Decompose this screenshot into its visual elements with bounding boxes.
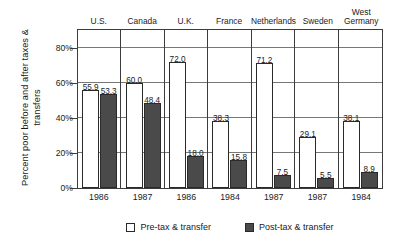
y-axis-tick-mark (70, 153, 77, 154)
bar-value-label: 38.3 (213, 114, 229, 123)
y-axis-tick-mark (70, 118, 77, 119)
poverty-bar-chart: Percent poor before and after taxes & tr… (0, 0, 407, 251)
y-axis-tick-mark (70, 188, 77, 189)
bar-pre-tax: 55.9 (82, 90, 99, 188)
bar-value-label: 71.2 (256, 56, 272, 65)
year-label: 1987 (252, 192, 296, 206)
bar-post-tax: 8.9 (361, 172, 378, 188)
country-label: Sweden (296, 2, 339, 29)
bar-value-label: 55.9 (83, 83, 99, 92)
bar-value-label: 48.4 (144, 96, 160, 105)
bar-value-label: 15.8 (231, 153, 247, 162)
legend-swatch-post (245, 223, 254, 232)
bar-value-label: 60.0 (126, 76, 142, 85)
country-header-row: U.S.CanadaU.K.FranceNetherlandsSwedenWes… (77, 2, 383, 29)
bar-group: 38.18.9 (339, 30, 382, 188)
bar-post-tax: 15.8 (230, 160, 247, 188)
country-label: U.S. (77, 2, 120, 29)
bar-value-label: 18.0 (188, 149, 204, 158)
bar-groups: 55.953.360.048.472.018.038.315.871.27.52… (78, 30, 382, 188)
bar-group: 29.15.5 (295, 30, 338, 188)
year-label: 1987 (121, 192, 165, 206)
legend-label: Pre-tax & transfer (140, 222, 211, 232)
country-label: Netherlands (251, 2, 296, 29)
bar-pre-tax: 38.1 (343, 121, 360, 188)
bar-value-label: 72.0 (170, 55, 186, 64)
bar-group: 71.27.5 (252, 30, 295, 188)
y-axis-tick-label: 80% (33, 43, 73, 53)
year-label: 1986 (77, 192, 121, 206)
bar-post-tax: 48.4 (144, 103, 161, 188)
year-label: 1987 (296, 192, 340, 206)
bar-pre-tax: 29.1 (299, 137, 316, 188)
y-axis-tick-label: 60% (33, 78, 73, 88)
bar-post-tax: 5.5 (317, 178, 334, 188)
country-label: Canada (120, 2, 163, 29)
bar-pre-tax: 60.0 (126, 83, 143, 188)
bar-post-tax: 7.5 (274, 175, 291, 188)
bar-pre-tax: 38.3 (212, 121, 229, 188)
bar-group: 38.315.8 (208, 30, 251, 188)
year-label: 1984 (339, 192, 383, 206)
legend-item: Pre-tax & transfer (126, 222, 211, 232)
country-label: West Germany (340, 2, 383, 29)
bar-value-label: 5.5 (320, 171, 331, 180)
country-label: U.K. (164, 2, 207, 29)
legend-item: Post-tax & transfer (245, 222, 334, 232)
bar-pre-tax: 72.0 (169, 62, 186, 188)
bar-value-label: 29.1 (300, 130, 316, 139)
bar-post-tax: 18.0 (187, 156, 204, 188)
bar-post-tax: 53.3 (100, 94, 117, 188)
x-axis-year-row: 1986198719861984198719871984 (77, 192, 383, 206)
bar-value-label: 53.3 (101, 87, 117, 96)
year-label: 1984 (208, 192, 252, 206)
year-label: 1986 (164, 192, 208, 206)
y-axis-tick-label: 0% (33, 183, 73, 193)
y-axis-tick-mark (70, 48, 77, 49)
y-axis-tick-label: 20% (33, 148, 73, 158)
chart-legend: Pre-tax & transferPost-tax & transfer (77, 222, 383, 232)
y-axis-tick-label: 40% (33, 113, 73, 123)
country-label: France (207, 2, 250, 29)
bar-value-label: 38.1 (343, 114, 359, 123)
y-axis-tick-mark (70, 83, 77, 84)
bar-group: 60.048.4 (121, 30, 164, 188)
legend-label: Post-tax & transfer (259, 222, 334, 232)
bar-pre-tax: 71.2 (256, 63, 273, 188)
bar-value-label: 8.9 (364, 165, 375, 174)
bar-group: 55.953.3 (78, 30, 121, 188)
legend-swatch-pre (126, 223, 135, 232)
bar-group: 72.018.0 (165, 30, 208, 188)
bar-value-label: 7.5 (277, 168, 288, 177)
